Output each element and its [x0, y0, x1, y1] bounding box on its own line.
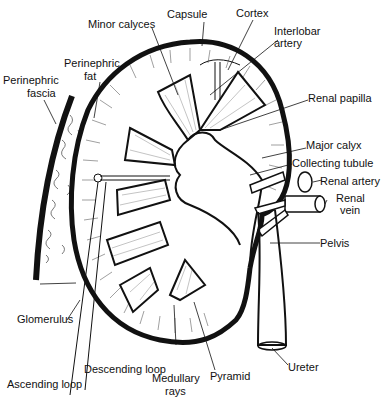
kidney-diagram [0, 0, 390, 404]
label-renal-vein-1: Renal [336, 192, 365, 204]
label-cortex: Cortex [236, 7, 268, 19]
label-ureter: Ureter [288, 361, 319, 373]
collecting-tubule-shape [250, 172, 285, 193]
label-medullary-rays-2: rays [165, 385, 186, 397]
pyramid-bottom-1 [120, 268, 158, 312]
pyramid-left-3 [107, 222, 168, 265]
label-renal-papilla: Renal papilla [308, 92, 372, 104]
perinephric-fascia-shape [36, 96, 72, 280]
label-perinephric-fascia-2: fascia [27, 87, 56, 99]
label-glomerulus: Glomerulus [17, 313, 73, 325]
label-perinephric-fat-2: fat [84, 70, 96, 82]
pyramid-top-right [200, 72, 265, 130]
label-pelvis: Pelvis [320, 237, 349, 249]
label-renal-vein-2: vein [340, 204, 360, 216]
label-major-calyx: Major calyx [306, 139, 362, 151]
label-collecting-tubule: Collecting tubule [292, 157, 373, 169]
label-interlobar-artery-2: artery [274, 37, 302, 49]
renal-artery-shape [298, 172, 312, 192]
label-medullary-rays-1: Medullary [152, 372, 200, 384]
pyramid-bottom-2 [170, 260, 205, 300]
label-ascending-loop: Ascending loop [7, 378, 82, 390]
major-calyx-shape [175, 133, 262, 269]
pyramid-left-2 [117, 180, 170, 215]
label-perinephric-fat-1: Perinephric [64, 57, 120, 69]
label-renal-artery: Renal artery [320, 175, 380, 187]
label-interlobar-artery-1: Interlobar [274, 25, 320, 37]
glomerulus-shape [94, 174, 102, 182]
label-minor-calyces: Minor calyces [88, 18, 155, 30]
pyramid-top-left [158, 75, 200, 140]
label-capsule: Capsule [167, 8, 207, 20]
label-pyramid: Pyramid [210, 370, 250, 382]
pyramids [107, 72, 265, 312]
label-perinephric-fascia-1: Perinephric [3, 74, 59, 86]
